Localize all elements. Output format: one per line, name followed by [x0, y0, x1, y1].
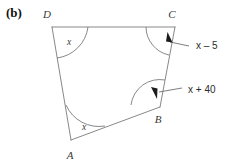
angle-label-a: x: [81, 122, 87, 132]
angle-arc-d: [57, 27, 88, 58]
arrow-head-angle-c: [166, 32, 173, 43]
vertex-label-a: A: [66, 149, 74, 161]
angle-label-c: x – 5: [196, 40, 218, 51]
leader-line-angle-b: [159, 88, 182, 92]
vertex-label-b: B: [155, 113, 162, 125]
quadrilateral-diagram: D C B A x x x – 5 x + 40: [0, 0, 228, 165]
arrow-head-angle-b: [151, 87, 158, 99]
geometry-figure: (b) D C B A x x x – 5 x + 40: [0, 0, 228, 165]
vertex-label-d: D: [42, 8, 51, 20]
vertex-label-c: C: [168, 8, 176, 20]
angle-arc-c: [146, 27, 169, 55]
angle-label-b: x + 40: [188, 84, 216, 95]
angle-label-d: x: [66, 37, 72, 47]
leader-line-angle-c: [170, 42, 189, 46]
